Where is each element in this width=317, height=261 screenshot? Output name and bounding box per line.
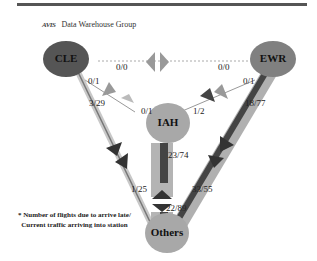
edge-iah-others-inner [160,143,168,183]
node-cle-label: CLE [48,52,84,64]
arrow-icon [121,94,134,103]
node-ewr-label: EWR [255,52,291,64]
label-ewr-others: 18/77 [245,98,266,108]
label-iah-others: 23/74 [168,150,189,160]
arrow-right-icon [160,52,169,72]
label-iah-ewr: 1/2 [193,106,205,116]
arrow-icon [102,82,116,96]
label-iah-cle: 0/1 [141,106,153,116]
footnote-line-2: Current traffic arriving into station [18,220,131,230]
footnote: * Number of flights due to arrive late/ … [18,210,131,230]
label-cle-ewr: 0/0 [116,62,128,72]
node-iah-label: IAH [150,116,186,128]
node-others-label: Others [142,226,192,238]
label-ewr-iah: 0/1 [243,76,255,86]
arrow-left-icon [146,52,155,72]
footnote-line-1: * Number of flights due to arrive late/ [18,210,131,220]
label-cle-others: 3/29 [89,98,105,108]
label-others-cle: 1/25 [131,184,147,194]
label-cle-iah: 0/1 [88,76,100,86]
label-others-ewr: 33/55 [192,184,213,194]
label-ewr-cle: 0/0 [218,62,230,72]
label-others-iah: 22/89 [166,203,187,213]
